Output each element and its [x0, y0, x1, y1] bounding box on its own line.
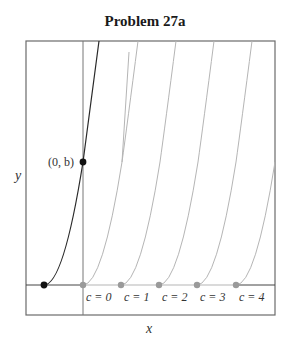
curve-c4	[236, 162, 275, 285]
curve-c3	[197, 41, 252, 285]
y-axis-label: y	[13, 168, 22, 183]
label-c0: c = 0	[86, 290, 111, 304]
label-c2: c = 2	[162, 290, 187, 304]
dot-c4	[233, 282, 239, 288]
point-label-0-b: (0, b)	[48, 155, 74, 169]
dot-c3	[194, 282, 200, 288]
dot-highlight-start	[41, 282, 48, 289]
curve-c2	[159, 41, 214, 285]
figure-title: Problem 27a	[105, 13, 186, 29]
curve-c0	[83, 52, 129, 285]
x-axis-label: x	[145, 321, 153, 336]
plot-frame	[26, 41, 275, 315]
label-c1: c = 1	[124, 290, 149, 304]
dot-c1	[118, 282, 124, 288]
dot-c2	[156, 282, 162, 288]
label-c4: c = 4	[239, 290, 264, 304]
label-c3: c = 3	[200, 290, 225, 304]
diagram: Problem 27a (0, b) c = 0 c = 1 c = 2	[0, 0, 291, 352]
curve-c1	[121, 41, 176, 285]
curve-c0-upper	[122, 41, 138, 162]
dot-0-b	[80, 159, 87, 166]
dot-c0	[80, 282, 86, 288]
